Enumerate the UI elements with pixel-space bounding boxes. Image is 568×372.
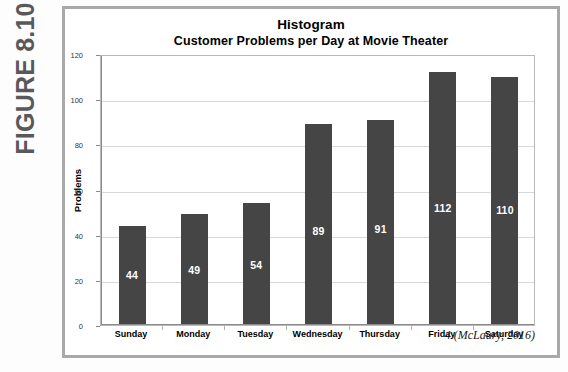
bar: 89 bbox=[305, 124, 332, 325]
bar-value-label: 44 bbox=[119, 269, 146, 281]
bar-value-label: 89 bbox=[305, 225, 332, 237]
bar-value-label: 110 bbox=[491, 204, 518, 216]
figure-frame: Histogram Customer Problems per Day at M… bbox=[62, 6, 560, 358]
bar: 44 bbox=[119, 226, 146, 325]
plot-area: 4449548991112110 bbox=[100, 55, 535, 326]
chart-title: Histogram bbox=[65, 17, 557, 32]
bar-value-label: 54 bbox=[243, 259, 270, 271]
figure-citation: 4 (McLaury, 2016) bbox=[445, 328, 535, 343]
figure-number-tab: FIGURE 8.10 bbox=[2, 8, 48, 148]
bar-value-label: 49 bbox=[181, 264, 208, 276]
y-axis-tick-label: 100 bbox=[55, 96, 83, 105]
figure-number-label: FIGURE 8.10 bbox=[11, 2, 40, 154]
bar: 54 bbox=[243, 203, 270, 325]
bar: 91 bbox=[367, 120, 394, 326]
page-background: FIGURE 8.10 Histogram Customer Problems … bbox=[0, 0, 568, 372]
chart-subtitle: Customer Problems per Day at Movie Theat… bbox=[65, 34, 557, 48]
y-axis-tick-label: 120 bbox=[55, 51, 83, 60]
bar: 112 bbox=[429, 72, 456, 325]
y-axis-tick-label: 60 bbox=[55, 186, 83, 195]
y-axis-tick-mark bbox=[96, 326, 100, 327]
y-axis-tick-label: 20 bbox=[55, 276, 83, 285]
bar: 49 bbox=[181, 214, 208, 325]
y-axis-tick-label: 0 bbox=[55, 322, 83, 331]
bar: 110 bbox=[491, 77, 518, 325]
figure-inner: Histogram Customer Problems per Day at M… bbox=[65, 9, 557, 355]
x-axis-line bbox=[101, 324, 534, 325]
y-axis-tick-label: 80 bbox=[55, 141, 83, 150]
y-axis-line bbox=[101, 56, 102, 325]
bar-value-label: 91 bbox=[367, 223, 394, 235]
gridline bbox=[101, 101, 534, 102]
y-axis-tick-label: 40 bbox=[55, 231, 83, 240]
bar-value-label: 112 bbox=[429, 202, 456, 214]
